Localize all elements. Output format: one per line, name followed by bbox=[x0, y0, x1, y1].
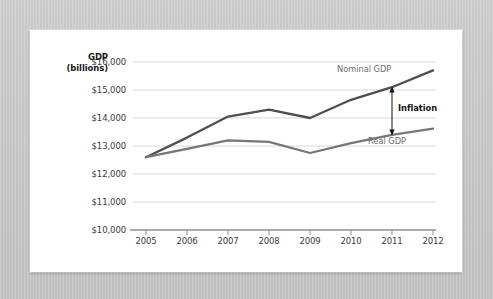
x-axis-ticks bbox=[146, 230, 433, 235]
series-label-nominal-gdp: Nominal GDP bbox=[337, 64, 391, 74]
x-tick-label: 2011 bbox=[376, 236, 408, 246]
inflation-arrow bbox=[389, 87, 394, 136]
x-tick-label: 2012 bbox=[417, 236, 449, 246]
x-tick-label: 2009 bbox=[294, 236, 326, 246]
x-tick-label: 2005 bbox=[130, 236, 162, 246]
chart-card: GDP (billions) $16,000 $15,000 $14,000 $… bbox=[30, 30, 462, 272]
chart-area: GDP (billions) $16,000 $15,000 $14,000 $… bbox=[30, 30, 462, 272]
x-tick-label: 2006 bbox=[171, 236, 203, 246]
page-background: GDP (billions) $16,000 $15,000 $14,000 $… bbox=[0, 0, 493, 299]
x-tick-label: 2008 bbox=[253, 236, 285, 246]
annotation-label-inflation: Inflation bbox=[398, 103, 437, 113]
x-tick-label: 2010 bbox=[335, 236, 367, 246]
x-tick-label: 2007 bbox=[212, 236, 244, 246]
series-label-real-gdp: Real GDP bbox=[368, 136, 406, 146]
